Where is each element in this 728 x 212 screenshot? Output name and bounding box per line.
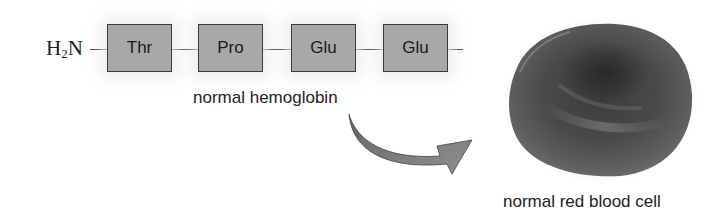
red-blood-cell-image [501,14,701,186]
cell-caption: normal red blood cell [503,192,661,212]
arrow-and-cell-graphic [0,0,728,212]
curved-arrow-icon [349,114,472,174]
hemoglobin-diagram: H2N Thr Pro Glu Glu normal hemoglobin [0,0,728,212]
